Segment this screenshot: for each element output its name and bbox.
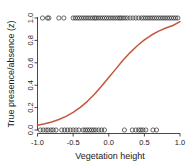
y-tick-label: 0.6 [26, 58, 35, 68]
x-tick-label: 0.0 [104, 138, 114, 147]
y-tick-label: 0.2 [26, 102, 35, 112]
x-tick-label: -0.5 [67, 138, 80, 147]
logistic-regression-chart: 0.00.20.40.60.81.0 True presence/absence… [0, 0, 190, 167]
x-axis-title: Vegetation height [75, 151, 145, 161]
x-tick-label: 1.0 [175, 138, 185, 147]
y-tick-label: 1.0 [26, 13, 35, 23]
y-tick-label: 0.4 [26, 80, 35, 90]
plot-canvas: 0.00.20.40.60.81.0 True presence/absence… [0, 0, 190, 167]
y-axis-title: True presence/absence (z) [6, 20, 16, 127]
x-tick-label: 0.5 [139, 138, 149, 147]
x-tick-label: -1.0 [31, 138, 44, 147]
y-tick-label: 0.0 [26, 125, 35, 135]
y-tick-label: 0.8 [26, 35, 35, 45]
